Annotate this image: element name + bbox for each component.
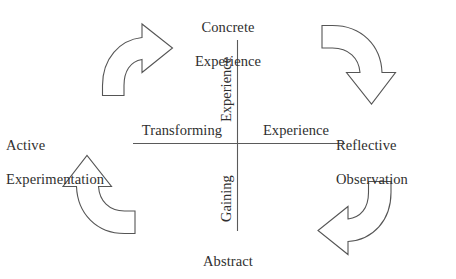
axis-label-transforming: Transforming <box>132 122 232 139</box>
kolb-learning-cycle-diagram: Concrete Experience Reflective Observati… <box>0 0 456 279</box>
pole-label-reflective-observation: Reflective Observation <box>336 120 452 205</box>
pole-label-concrete-experience-line1: Concrete <box>0 19 456 36</box>
pole-label-active-experimentation-line2: Experimentation <box>6 171 134 188</box>
pole-label-reflective-observation-line2: Observation <box>336 171 452 188</box>
axis-label-experience-horizontal: Experience <box>246 122 346 139</box>
pole-label-reflective-observation-line1: Reflective <box>336 137 452 154</box>
pole-label-abstract-conceptualization-line1: Abstract <box>0 253 456 270</box>
pole-label-active-experimentation-line1: Active <box>6 137 134 154</box>
axis-label-gaining-vertical: Gaining <box>218 175 235 222</box>
axis-label-experience-vertical: Experience <box>218 57 235 122</box>
pole-label-active-experimentation: Active Experimentation <box>6 120 134 205</box>
pole-label-abstract-conceptualization: Abstract Conceptualization <box>0 236 456 279</box>
